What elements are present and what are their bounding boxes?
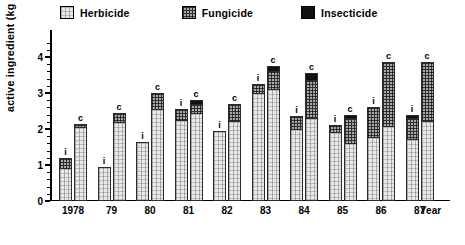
bar-label-i: i <box>372 96 375 106</box>
bar[interactable] <box>305 73 318 201</box>
bar[interactable] <box>98 167 111 201</box>
y-tick-minor <box>47 71 50 72</box>
bar[interactable] <box>136 142 149 201</box>
bar-segment-fungicide <box>368 108 379 138</box>
legend-item-insecticide: Insecticide <box>301 6 377 19</box>
y-tick-minor <box>47 143 50 144</box>
bar-label-i: i <box>411 104 414 114</box>
bar-segment-herbicide <box>176 121 187 200</box>
y-tick-minor <box>47 151 50 152</box>
x-tick-label: 81 <box>183 205 194 216</box>
bar-segment-herbicide <box>152 110 163 200</box>
y-tick-minor <box>47 86 50 87</box>
bar-label-i: i <box>141 131 144 141</box>
bar[interactable] <box>267 66 280 201</box>
bar-segment-fungicide <box>306 81 317 118</box>
bar-segment-fungicide <box>330 126 341 133</box>
bar-segment-herbicide <box>345 144 356 200</box>
y-tick-minor <box>47 107 50 108</box>
x-tick-label: 79 <box>106 205 117 216</box>
bar-label-c: c <box>347 104 352 114</box>
bar-label-i: i <box>257 73 260 83</box>
bar-segment-herbicide <box>214 132 225 200</box>
bar[interactable] <box>74 124 87 201</box>
bar[interactable] <box>228 104 241 201</box>
bar-segment-herbicide <box>191 114 202 200</box>
y-tick-label: 1 <box>37 160 43 171</box>
y-tick-major <box>45 164 50 166</box>
bar-segment-fungicide <box>60 159 71 169</box>
bar-segment-herbicide <box>368 138 379 200</box>
bar-segment-fungicide <box>407 119 418 140</box>
bar-segment-herbicide <box>99 168 110 200</box>
bar-group: ic <box>59 30 98 201</box>
bar[interactable] <box>344 115 357 201</box>
bar-segment-insecticide <box>306 74 317 81</box>
x-tick-label: 82 <box>221 205 232 216</box>
bar[interactable] <box>59 158 72 201</box>
legend-swatch-herbicide <box>60 6 74 19</box>
bar-segment-herbicide <box>114 123 125 200</box>
y-tick-minor <box>47 179 50 180</box>
bar-label-c: c <box>309 62 314 72</box>
bar-segment-herbicide <box>407 140 418 200</box>
bar[interactable] <box>382 62 395 201</box>
plot-area: 01234 icicicicicicicicicic 1978798081828… <box>50 30 448 201</box>
bar-group: ic <box>213 30 252 201</box>
bar-label-i: i <box>180 98 183 108</box>
y-axis-title: active ingredient (kg / ha) <box>4 0 16 112</box>
y-tick-minor <box>47 100 50 101</box>
bar[interactable] <box>113 113 126 201</box>
y-tick-minor <box>47 115 50 116</box>
bar-segment-herbicide <box>268 90 279 200</box>
bar[interactable] <box>190 100 203 201</box>
y-tick-major <box>45 128 50 130</box>
bar-label-c: c <box>386 51 391 61</box>
bar-segment-herbicide <box>229 122 240 200</box>
legend-label-fungicide: Fungicide <box>202 7 253 19</box>
bar-label-i: i <box>295 105 298 115</box>
y-tick-minor <box>47 172 50 173</box>
bar-segment-herbicide <box>291 130 302 200</box>
chart-root: Herbicide Fungicide Insecticide active i… <box>0 0 465 245</box>
y-tick-major <box>45 200 50 202</box>
bar-segment-fungicide <box>268 72 279 90</box>
bar-group: ic <box>175 30 214 201</box>
bar[interactable] <box>406 115 419 201</box>
y-tick-label: 4 <box>37 52 43 63</box>
bar[interactable] <box>290 116 303 201</box>
y-tick-minor <box>47 43 50 44</box>
bar-segment-herbicide <box>330 133 341 200</box>
bar-label-c: c <box>424 51 429 61</box>
bar-label-c: c <box>155 82 160 92</box>
y-tick-minor <box>47 79 50 80</box>
bar[interactable] <box>175 109 188 201</box>
bar[interactable] <box>421 62 434 201</box>
bar-label-c: c <box>193 89 198 99</box>
bar-segment-herbicide <box>137 143 148 200</box>
bar[interactable] <box>213 131 226 201</box>
y-tick-minor <box>47 194 50 195</box>
bar[interactable] <box>252 84 265 201</box>
bar-segment-fungicide <box>114 114 125 123</box>
y-tick-minor <box>47 187 50 188</box>
bar-segment-fungicide <box>345 119 356 144</box>
bar-segment-fungicide <box>422 63 433 122</box>
bar-segment-herbicide <box>60 169 71 200</box>
bar-group: ic <box>136 30 175 201</box>
bar-segment-fungicide <box>253 85 264 94</box>
bar[interactable] <box>329 125 342 201</box>
x-tick-label: 86 <box>375 205 386 216</box>
x-tick-label: 85 <box>337 205 348 216</box>
x-tick-label: 80 <box>144 205 155 216</box>
y-tick-minor <box>47 64 50 65</box>
bar[interactable] <box>151 93 164 201</box>
bar-group: ic <box>290 30 329 201</box>
bar[interactable] <box>367 107 380 201</box>
bar-group: ic <box>367 30 406 201</box>
y-tick-major <box>45 92 50 94</box>
bar-segment-herbicide <box>422 122 433 200</box>
bar-group: ic <box>252 30 291 201</box>
bar-segment-herbicide <box>383 127 394 200</box>
bar-segment-fungicide <box>291 117 302 129</box>
